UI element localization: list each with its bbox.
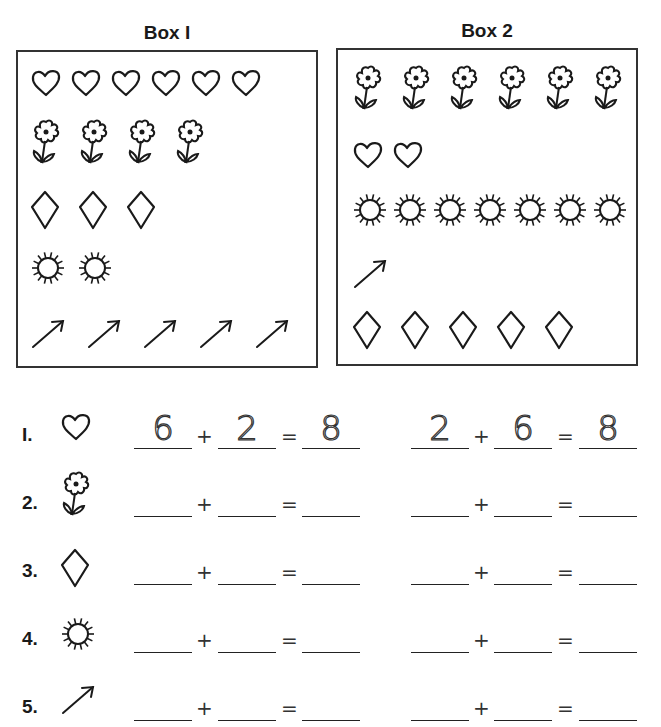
- answer-blank[interactable]: [302, 476, 360, 517]
- exercise-row: 5.+=+=: [0, 672, 661, 727]
- answer-blank[interactable]: [579, 680, 637, 721]
- plus-sign: +: [473, 560, 490, 584]
- flower-icon: [352, 64, 384, 118]
- answer-blank[interactable]: [302, 680, 360, 721]
- equals-sign: =: [281, 424, 298, 448]
- answer-value: 6: [134, 408, 192, 448]
- flower-icon: [448, 64, 480, 118]
- answer-value: 2: [411, 408, 469, 448]
- arrow-icon: [142, 318, 178, 354]
- answer-blank[interactable]: 2: [411, 408, 469, 449]
- plus-sign: +: [473, 424, 490, 448]
- diamond-icon: [126, 190, 156, 234]
- plus-sign: +: [473, 492, 490, 516]
- sun-icon: [392, 192, 428, 232]
- equals-sign: =: [557, 628, 574, 652]
- heart-icon: [150, 68, 182, 102]
- answer-blank[interactable]: 2: [218, 408, 276, 449]
- heart-icon: [60, 412, 92, 446]
- answer-blank[interactable]: [218, 476, 276, 517]
- plus-sign: +: [473, 696, 490, 720]
- box-2-title: Box 2: [417, 20, 557, 42]
- answer-blank[interactable]: [579, 544, 637, 585]
- exercise-number: 4.: [22, 628, 38, 650]
- equals-sign: =: [281, 696, 298, 720]
- heart-icon: [30, 68, 62, 102]
- exercise-row: 4.+=+=: [0, 604, 661, 664]
- answer-blank[interactable]: 8: [579, 408, 637, 449]
- diamond-icon: [496, 310, 526, 354]
- plus-sign: +: [196, 424, 213, 448]
- answer-blank[interactable]: [134, 544, 192, 585]
- answer-blank[interactable]: [302, 612, 360, 653]
- diamond-icon: [78, 190, 108, 234]
- diamond-icon: [60, 548, 90, 592]
- answer-value: 8: [579, 408, 637, 448]
- arrow-icon: [86, 318, 122, 354]
- answer-value: 8: [302, 408, 360, 448]
- answer-value: 2: [218, 408, 276, 448]
- answer-blank[interactable]: [134, 612, 192, 653]
- equals-sign: =: [557, 492, 574, 516]
- heart-icon: [190, 68, 222, 102]
- flower-icon: [496, 64, 528, 118]
- flower-icon: [126, 118, 158, 172]
- sun-icon: [552, 192, 588, 232]
- answer-blank[interactable]: [134, 680, 192, 721]
- answer-blank[interactable]: [494, 680, 552, 721]
- plus-sign: +: [473, 628, 490, 652]
- answer-blank[interactable]: [579, 476, 637, 517]
- answer-blank[interactable]: [579, 612, 637, 653]
- answer-blank[interactable]: [218, 612, 276, 653]
- answer-blank[interactable]: 8: [302, 408, 360, 449]
- answer-blank[interactable]: [494, 544, 552, 585]
- arrow-icon: [352, 258, 388, 294]
- heart-icon: [110, 68, 142, 102]
- sun-icon: [30, 250, 66, 290]
- sun-icon: [352, 192, 388, 232]
- sun-icon: [592, 192, 628, 232]
- arrow-icon: [198, 318, 234, 354]
- plus-sign: +: [196, 696, 213, 720]
- flower-icon: [174, 118, 206, 172]
- exercise-number: 2.: [22, 492, 38, 514]
- exercise-row: I.628268+=+=: [0, 400, 661, 460]
- flower-icon: [30, 118, 62, 172]
- flower-icon: [400, 64, 432, 118]
- exercise-number: 3.: [22, 560, 38, 582]
- equals-sign: =: [557, 696, 574, 720]
- exercise-row: 2.+=+=: [0, 468, 661, 528]
- answer-blank[interactable]: [494, 612, 552, 653]
- answer-blank[interactable]: [218, 544, 276, 585]
- answer-blank[interactable]: 6: [494, 408, 552, 449]
- sun-icon: [77, 250, 113, 290]
- exercise-number: 5.: [22, 696, 38, 718]
- sun-icon: [472, 192, 508, 232]
- diamond-icon: [30, 190, 60, 234]
- flower-icon: [60, 470, 92, 524]
- sun-icon: [432, 192, 468, 232]
- answer-blank[interactable]: [134, 476, 192, 517]
- diamond-icon: [352, 310, 382, 354]
- answer-blank[interactable]: 6: [134, 408, 192, 449]
- heart-icon: [70, 68, 102, 102]
- diamond-icon: [448, 310, 478, 354]
- flower-icon: [78, 118, 110, 172]
- box-1-title: Box I: [97, 22, 237, 44]
- answer-blank[interactable]: [302, 544, 360, 585]
- equals-sign: =: [281, 492, 298, 516]
- flower-icon: [544, 64, 576, 118]
- plus-sign: +: [196, 560, 213, 584]
- equals-sign: =: [281, 560, 298, 584]
- exercise-number: I.: [22, 424, 33, 446]
- plus-sign: +: [196, 628, 213, 652]
- answer-blank[interactable]: [218, 680, 276, 721]
- equals-sign: =: [281, 628, 298, 652]
- answer-blank[interactable]: [494, 476, 552, 517]
- answer-blank[interactable]: [411, 612, 469, 653]
- answer-blank[interactable]: [411, 680, 469, 721]
- sun-icon: [512, 192, 548, 232]
- answer-blank[interactable]: [411, 476, 469, 517]
- arrow-icon: [30, 318, 66, 354]
- answer-blank[interactable]: [411, 544, 469, 585]
